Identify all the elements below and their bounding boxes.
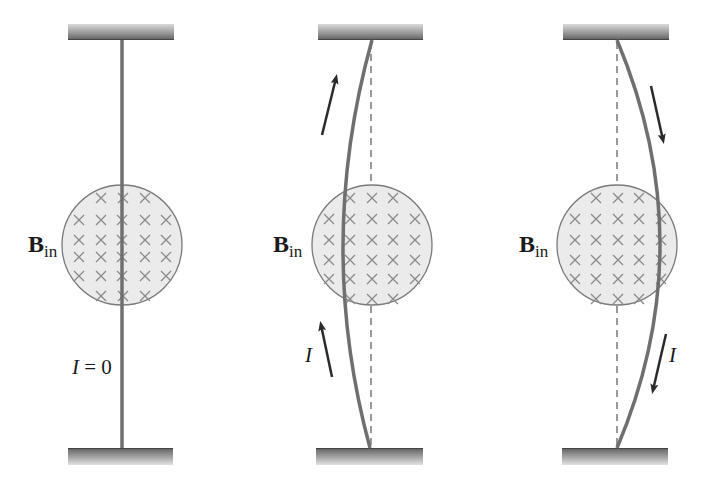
current-arrow-upper bbox=[322, 78, 336, 135]
magnetic-force-on-wire-figure: Bin I = 0 Bin I bbox=[0, 0, 709, 478]
figure-canvas: Bin I = 0 Bin I bbox=[0, 0, 709, 478]
top-support-bar bbox=[68, 24, 174, 40]
current-label-zero: I = 0 bbox=[71, 355, 112, 379]
bottom-support-bar bbox=[68, 448, 173, 465]
magnetic-field-region bbox=[312, 185, 432, 305]
current-arrow-lower bbox=[653, 334, 666, 390]
panel-2: Bin I bbox=[273, 24, 432, 465]
panel-1: Bin I = 0 bbox=[28, 24, 182, 465]
field-label: Bin bbox=[273, 231, 303, 261]
top-support-bar bbox=[318, 24, 423, 40]
bottom-support-bar bbox=[562, 448, 668, 465]
bottom-support-bar bbox=[316, 448, 423, 465]
field-label: Bin bbox=[519, 231, 549, 261]
current-arrow-lower bbox=[321, 325, 332, 377]
top-support-bar bbox=[563, 24, 669, 40]
panel-3: Bin I bbox=[519, 24, 677, 465]
current-label: I bbox=[304, 343, 313, 367]
current-arrow-upper bbox=[651, 86, 663, 140]
current-label: I bbox=[668, 343, 677, 367]
field-label: Bin bbox=[28, 231, 58, 261]
